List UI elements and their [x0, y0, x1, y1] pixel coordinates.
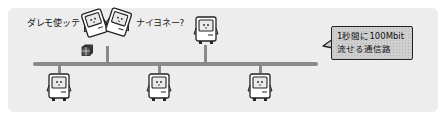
computer-node-bottom-3	[248, 73, 272, 103]
computer-icon	[194, 16, 218, 46]
speech-label-right: ナイヨネー?	[136, 16, 184, 29]
bus-stub	[259, 65, 262, 73]
computer-icon	[248, 73, 272, 103]
bus-cable	[33, 62, 318, 66]
computer-icon	[147, 73, 171, 103]
computer-node-bottom-2	[147, 73, 171, 103]
computer-node-bottom-1	[47, 73, 71, 103]
package-icon	[81, 41, 94, 53]
callout-line-2: 流せる通信路	[337, 43, 404, 56]
bus-stub	[58, 65, 61, 73]
bus-stub	[106, 46, 109, 63]
callout-line-1: 1秒間に100Mbit	[337, 30, 404, 43]
bandwidth-callout: 1秒間に100Mbit 流せる通信路	[331, 26, 413, 60]
bus-stub	[204, 45, 207, 63]
computer-node-top-3	[194, 16, 218, 46]
speech-label-left: ダレモ使ッテ	[27, 16, 79, 29]
callout-text: 1秒間に100Mbit 流せる通信路	[337, 30, 404, 56]
bus-stub	[158, 65, 161, 73]
computer-icon	[47, 73, 71, 103]
